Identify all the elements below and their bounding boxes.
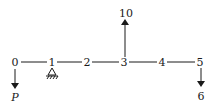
node-label-4: 4 xyxy=(159,56,166,69)
node-label-2: 2 xyxy=(84,56,91,69)
load-arrow-node-5: 6 xyxy=(198,68,205,103)
node-label-3: 3 xyxy=(121,56,128,69)
beam-diagram: 0 1 2 3 4 5 P 10 6 xyxy=(0,0,213,106)
load-label-6: 6 xyxy=(198,90,205,103)
load-arrow-node-3: 10 xyxy=(119,7,133,57)
node-label-0: 0 xyxy=(12,56,19,69)
load-label-p: P xyxy=(10,91,19,104)
pin-support-icon xyxy=(46,68,58,79)
node-label-5: 5 xyxy=(197,56,204,69)
load-label-10: 10 xyxy=(119,7,133,20)
load-arrow-node-0: P xyxy=(10,69,19,104)
